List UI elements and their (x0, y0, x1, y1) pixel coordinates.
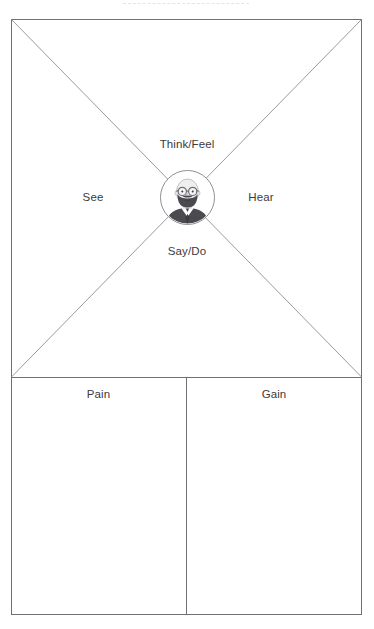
empathy-map-frame (0, 0, 374, 629)
empathy-map-canvas: Think/Feel See Hear Say/Do Pain Gain (0, 0, 374, 629)
bearded-man-avatar-icon (161, 171, 214, 224)
quadrant-label-say-do: Say/Do (0, 245, 374, 258)
quadrant-label-hear: Hear (231, 191, 291, 204)
persona-avatar (160, 170, 215, 225)
quadrant-label-think-feel: Think/Feel (0, 138, 374, 151)
section-label-gain: Gain (186, 388, 362, 401)
quadrant-label-see: See (63, 191, 123, 204)
section-label-pain: Pain (11, 388, 186, 401)
